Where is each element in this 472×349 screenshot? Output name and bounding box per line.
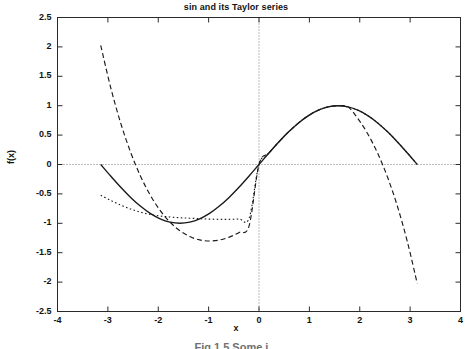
- figure-caption: Fig 1.5 Some i...: [0, 341, 472, 349]
- x-tick-label: 4: [446, 315, 472, 325]
- y-tick-label: 1.5: [18, 70, 52, 80]
- figure-container: sin and its Taylor series f(x) x 2.521.5…: [0, 0, 472, 349]
- y-tick-label: 2: [18, 41, 52, 51]
- y-tick-label: -0.5: [18, 188, 52, 198]
- plot-canvas: [0, 0, 472, 349]
- x-tick-label: -1: [194, 315, 224, 325]
- y-tick-label: 1: [18, 100, 52, 110]
- y-tick-label: -1: [18, 217, 52, 227]
- x-tick-label: 1: [294, 315, 324, 325]
- x-tick-label: 2: [345, 315, 375, 325]
- x-tick-label: 0: [244, 315, 274, 325]
- y-tick-label: 2.5: [18, 12, 52, 22]
- y-tick-label: 0.5: [18, 129, 52, 139]
- x-tick-label: -3: [93, 315, 123, 325]
- x-tick-label: -2: [143, 315, 173, 325]
- y-tick-label: -1.5: [18, 247, 52, 257]
- x-tick-label: -4: [43, 315, 73, 325]
- y-tick-label: -2: [18, 276, 52, 286]
- y-tick-label: 0: [18, 159, 52, 169]
- x-tick-label: 3: [395, 315, 425, 325]
